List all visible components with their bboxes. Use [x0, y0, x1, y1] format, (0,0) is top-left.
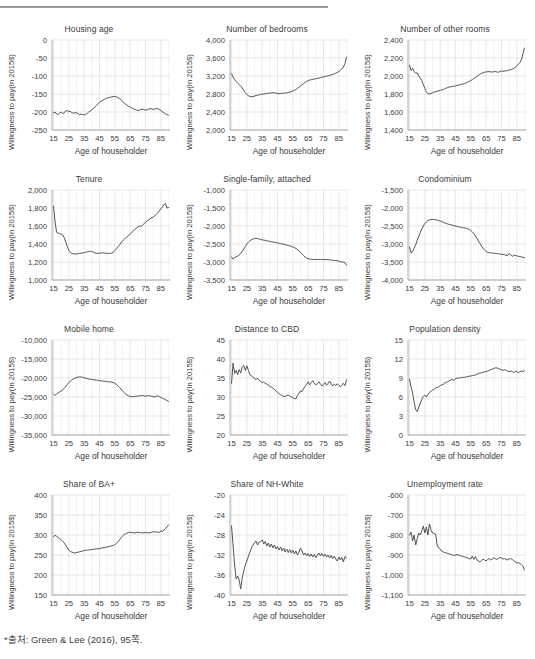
chart-panel: Unemployment rate-600-700-800-900-1,000-…	[356, 473, 534, 633]
x-axis-tick-label: 35	[80, 599, 88, 608]
chart-panel: Distance to CBD2025303540451525354555657…	[178, 318, 356, 473]
y-axis-tick-label: 3,200	[206, 72, 225, 81]
x-axis-tick-label: 65	[482, 134, 490, 143]
y-axis-tick-label: -32	[214, 551, 225, 560]
x-axis-tick-label: 55	[289, 284, 297, 293]
x-axis-tick-label: 75	[319, 134, 327, 143]
x-axis-tick-label: 25	[65, 599, 73, 608]
x-axis-tick-label: 15	[49, 134, 57, 143]
x-axis-tick-label: 15	[49, 284, 57, 293]
y-axis-tick-label: -1,000	[203, 186, 225, 195]
x-axis-tick-label: 45	[451, 134, 459, 143]
x-axis-tick-label: 35	[436, 134, 444, 143]
data-series-line	[410, 368, 525, 412]
x-axis-tick-label: 85	[335, 599, 343, 608]
data-series-line	[410, 219, 525, 257]
y-axis-tick-label: -2,500	[203, 240, 225, 249]
y-axis-tick-label: -3,000	[381, 240, 403, 249]
chart-panel: Number of other rooms1,4001,6001,8002,00…	[356, 18, 534, 168]
y-axis-tick-label: -150	[32, 90, 47, 99]
y-axis-tick-label: 2,000	[384, 72, 403, 81]
x-axis-tick-label: 15	[227, 134, 235, 143]
y-axis-tick-label: 6	[399, 393, 403, 402]
x-axis-tick-label: 35	[258, 134, 266, 143]
y-axis-tick-label: -3,500	[203, 276, 225, 285]
y-axis-tick-label: 2,000	[206, 126, 225, 135]
x-axis-label: Age of householder	[230, 611, 348, 621]
x-axis-tick-label: 85	[513, 284, 521, 293]
x-axis-tick-label: 65	[126, 599, 134, 608]
x-axis-tick-label: 65	[304, 134, 312, 143]
x-axis-tick-label: 65	[304, 599, 312, 608]
y-axis-tick-label: 9	[399, 374, 403, 383]
y-axis-tick-label: -1,000	[381, 571, 403, 580]
y-axis-tick-label: 1,200	[28, 258, 47, 267]
x-axis-tick-label: 35	[80, 284, 88, 293]
data-series-line	[410, 48, 525, 94]
y-axis-tick-label: -600	[388, 491, 403, 500]
y-axis-tick-label: 25	[217, 412, 225, 421]
y-axis-tick-label: -20,000	[21, 374, 47, 383]
chart-panel: Condominium-1,500-2,000-2,500-3,000-3,50…	[356, 168, 534, 318]
chart-panel: Number of bedrooms2,0002,4002,8003,2003,…	[178, 18, 356, 168]
y-axis-tick-label: 12	[395, 355, 403, 364]
y-axis-tick-label: 150	[34, 591, 47, 600]
x-axis-tick-label: 75	[319, 439, 327, 448]
y-axis-tick-label: 2,200	[384, 54, 403, 63]
data-series-line	[410, 524, 525, 570]
x-axis-tick-label: 75	[141, 439, 149, 448]
x-axis-tick-label: 75	[319, 599, 327, 608]
y-axis-tick-label: 1,800	[28, 204, 47, 213]
y-axis-tick-label: -1,500	[381, 186, 403, 195]
x-axis-tick-label: 45	[451, 439, 459, 448]
x-axis-label: Age of householder	[52, 296, 170, 306]
y-axis-tick-label: -30,000	[21, 412, 47, 421]
chart-plot-area: 036912151525354555657585	[356, 318, 534, 473]
x-axis-tick-label: 25	[421, 599, 429, 608]
x-axis-label: Age of householder	[230, 296, 348, 306]
y-axis-tick-label: 30	[217, 393, 225, 402]
x-axis-tick-label: 75	[141, 134, 149, 143]
y-axis-tick-label: -1,100	[381, 591, 403, 600]
x-axis-tick-label: 45	[273, 134, 281, 143]
chart-panel: Population density0369121515253545556575…	[356, 318, 534, 473]
y-axis-tick-label: 1,400	[28, 240, 47, 249]
top-divider-rule	[0, 6, 328, 8]
x-axis-tick-label: 85	[157, 284, 165, 293]
x-axis-tick-label: 45	[451, 599, 459, 608]
x-axis-tick-label: 25	[421, 134, 429, 143]
x-axis-tick-label: 85	[513, 439, 521, 448]
y-axis-tick-label: 250	[34, 551, 47, 560]
x-axis-tick-label: 35	[258, 599, 266, 608]
x-axis-tick-label: 75	[497, 599, 505, 608]
x-axis-tick-label: 55	[289, 599, 297, 608]
x-axis-tick-label: 15	[227, 439, 235, 448]
x-axis-tick-label: 55	[289, 439, 297, 448]
y-axis-tick-label: -2,000	[203, 222, 225, 231]
x-axis-tick-label: 45	[273, 599, 281, 608]
x-axis-tick-label: 35	[436, 284, 444, 293]
x-axis-tick-label: 65	[126, 439, 134, 448]
data-series-line	[54, 525, 169, 553]
x-axis-label: Age of householder	[52, 146, 170, 156]
x-axis-tick-label: 65	[126, 134, 134, 143]
y-axis-tick-label: 2,400	[384, 36, 403, 45]
y-axis-tick-label: 40	[217, 355, 225, 364]
y-axis-tick-label: 1,800	[384, 90, 403, 99]
y-axis-tick-label: -200	[32, 108, 47, 117]
y-axis-tick-label: -10,000	[21, 336, 47, 345]
x-axis-tick-label: 85	[335, 439, 343, 448]
y-axis-tick-label: -15,000	[21, 355, 47, 364]
chart-plot-area: -10,000-15,000-20,000-25,000-30,000-35,0…	[0, 318, 178, 473]
y-axis-tick-label: 2,800	[206, 90, 225, 99]
x-axis-tick-label: 45	[95, 439, 103, 448]
x-axis-tick-label: 15	[405, 284, 413, 293]
y-axis-tick-label: -36	[214, 571, 225, 580]
y-axis-tick-label: -35,000	[21, 431, 47, 440]
y-axis-tick-label: 20	[217, 431, 225, 440]
x-axis-label: Age of householder	[408, 611, 526, 621]
y-axis-tick-label: -250	[32, 126, 47, 135]
x-axis-tick-label: 35	[80, 439, 88, 448]
y-axis-tick-label: 45	[217, 336, 225, 345]
x-axis-tick-label: 55	[467, 134, 475, 143]
